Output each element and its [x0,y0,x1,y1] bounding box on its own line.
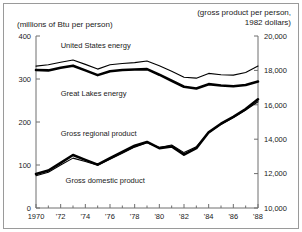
svg-text:1970: 1970 [28,212,45,221]
svg-text:'88: '88 [253,212,263,221]
svg-text:'74: '74 [80,212,90,221]
svg-text:18,000: 18,000 [264,66,287,75]
chart-series-lines [36,60,258,176]
series-label: Great Lakes energy [61,89,127,98]
series-line-gross-domestic-product [36,102,258,176]
line-chart-plot: 0100200300400 10,00012,00014,00016,00018… [0,0,302,232]
svg-text:300: 300 [18,75,31,84]
svg-text:200: 200 [18,118,31,127]
svg-text:12,000: 12,000 [264,169,287,178]
svg-text:'80: '80 [154,212,164,221]
chart-figure: (millions of Btu per person) (gross prod… [0,0,302,232]
series-label: United States energy [61,41,131,50]
svg-text:'78: '78 [130,212,140,221]
x-axis-tick-labels: 1970'72'74'76'78'80'82'84'86'88 [28,212,263,221]
left-axis-tick-labels: 0100200300400 [18,32,31,213]
svg-text:16,000: 16,000 [264,101,287,110]
svg-text:400: 400 [18,32,31,41]
svg-text:10,000: 10,000 [264,204,287,213]
svg-text:'72: '72 [56,212,66,221]
svg-text:'82: '82 [179,212,189,221]
svg-text:'76: '76 [105,212,115,221]
series-label: Gross domestic product [66,176,146,185]
svg-text:'86: '86 [228,212,238,221]
right-axis-tick-labels: 10,00012,00014,00016,00018,00020,000 [264,32,287,213]
svg-text:14,000: 14,000 [264,135,287,144]
svg-text:100: 100 [18,161,31,170]
svg-text:20,000: 20,000 [264,32,287,41]
series-label: Gross regional product [61,129,138,138]
series-line-great-lakes-energy [36,66,258,89]
svg-text:'84: '84 [204,212,214,221]
